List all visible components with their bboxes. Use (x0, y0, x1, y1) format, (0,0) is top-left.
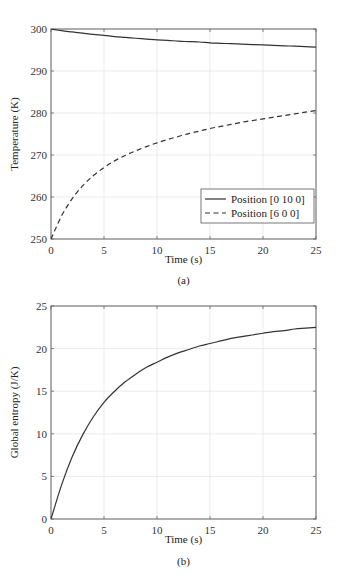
figure: 0510152025250260270280290300Time (s)Temp… (0, 0, 339, 581)
x-axis: 0510152025 (48, 306, 322, 536)
x-tick-label: 0 (48, 524, 54, 536)
y-tick-label: 270 (31, 149, 48, 161)
x-tick-label: 10 (152, 524, 164, 536)
y-tick-label: 5 (42, 470, 48, 482)
chart-a: 0510152025250260270280290300Time (s)Temp… (8, 23, 322, 287)
y-axis-label: Temperature (K) (8, 97, 21, 171)
x-tick-label: 25 (311, 244, 323, 256)
x-tick-label: 5 (101, 524, 107, 536)
x-axis-label: Time (s) (165, 253, 203, 266)
x-tick-label: 15 (205, 244, 217, 256)
figure-caption: (b) (177, 555, 190, 568)
grid (51, 306, 316, 519)
x-axis-label: Time (s) (165, 533, 203, 546)
series-line (51, 327, 316, 519)
y-tick-label: 0 (42, 513, 48, 525)
x-tick-label: 0 (48, 244, 54, 256)
y-tick-label: 260 (31, 191, 48, 203)
legend-entry: Position [6 0 0] (231, 207, 299, 219)
y-tick-label: 25 (36, 300, 48, 312)
y-tick-label: 300 (31, 23, 48, 35)
x-tick-label: 20 (258, 524, 270, 536)
y-tick-label: 290 (31, 65, 48, 77)
x-tick-label: 25 (311, 524, 323, 536)
y-tick-label: 250 (31, 233, 48, 245)
x-tick-label: 5 (101, 244, 107, 256)
y-tick-label: 15 (36, 385, 48, 397)
axes-frame (51, 306, 316, 519)
series-line (51, 29, 316, 47)
x-tick-label: 15 (205, 524, 217, 536)
legend-entry: Position [0 10 0] (231, 193, 305, 205)
y-tick-label: 20 (36, 343, 48, 355)
y-tick-label: 280 (31, 107, 48, 119)
figure-caption: (a) (177, 274, 190, 287)
x-tick-label: 20 (258, 244, 270, 256)
x-tick-label: 10 (152, 244, 164, 256)
legend: Position [0 10 0]Position [6 0 0] (201, 189, 314, 223)
y-axis: 0510152025 (36, 300, 316, 525)
y-tick-label: 10 (36, 428, 48, 440)
y-axis-label: Global entropy (J/K) (8, 366, 21, 458)
chart-b: 05101520250510152025Time (s)Global entro… (8, 300, 322, 568)
